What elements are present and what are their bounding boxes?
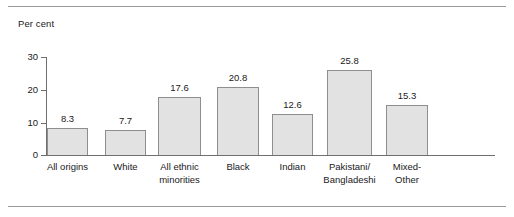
- bar: [217, 87, 259, 155]
- bar-value-label: 20.8: [217, 73, 259, 83]
- y-axis-tick-label: 20: [14, 85, 38, 95]
- y-axis-tick-mark: [41, 123, 46, 124]
- bar-value-label: 17.6: [158, 83, 201, 93]
- bar: [386, 105, 428, 155]
- bar: [158, 97, 201, 155]
- bar-value-label: 15.3: [386, 91, 428, 101]
- x-axis-category-label: Mixed- Other: [374, 160, 440, 186]
- x-axis-category-label: All origins: [35, 160, 100, 173]
- y-axis-tick-label-wrap: 20: [0, 85, 38, 95]
- y-axis-tick-label: 10: [14, 118, 38, 128]
- y-axis-tick-label-wrap: 30: [0, 52, 38, 62]
- y-axis-tick-mark: [41, 57, 46, 58]
- y-axis-tick-label-wrap: 0: [0, 150, 38, 160]
- x-axis-line: [46, 155, 495, 156]
- bar: [47, 128, 88, 155]
- bar-chart-figure: Per cent 3020100 8.3All origins7.7White1…: [0, 0, 514, 217]
- bar-value-label: 12.6: [272, 100, 313, 110]
- y-axis-tick-label: 30: [14, 52, 38, 62]
- bar-value-label: 8.3: [47, 114, 88, 124]
- y-axis-tick-mark: [41, 90, 46, 91]
- y-axis-tick-label-wrap: 10: [0, 118, 38, 128]
- bar: [105, 130, 146, 155]
- bar: [327, 70, 372, 155]
- bar-value-label: 7.7: [105, 116, 146, 126]
- x-axis-category-label: All ethnic minorities: [146, 160, 213, 186]
- plot-area: 3020100 8.3All origins7.7White17.6All et…: [0, 0, 514, 217]
- y-axis-tick-mark: [41, 155, 46, 156]
- y-axis-tick-label: 0: [14, 150, 38, 160]
- bar-value-label: 25.8: [327, 56, 372, 66]
- bottom-divider-rule: [8, 206, 506, 207]
- bar: [272, 114, 313, 155]
